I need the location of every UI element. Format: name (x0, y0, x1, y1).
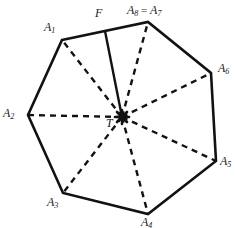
radius-t-a6 (122, 73, 211, 117)
radius-t-a3 (63, 117, 122, 193)
vertex-label-a3: A3 (47, 196, 58, 208)
vertex-label-a8-equals-a7: A8 = A7 (127, 4, 161, 16)
vertex-label-a4: A4 (141, 216, 152, 228)
radius-t-a78 (122, 22, 148, 117)
radius-t-a5 (122, 117, 216, 161)
radius-t-a4 (122, 117, 148, 214)
radius-t-a1 (62, 40, 122, 117)
geometry-figure: A1 A2 A3 A4 A5 A6 A8 = A7 F T (0, 0, 236, 228)
point-label-f: F (95, 7, 102, 19)
vertex-label-a2: A2 (3, 107, 14, 119)
segment-f-t (105, 31, 122, 117)
vertex-label-a6: A6 (218, 62, 229, 74)
vertex-label-a1: A1 (44, 21, 55, 33)
center-point-dot (119, 114, 126, 121)
point-label-t: T (106, 117, 113, 129)
vertex-label-a5: A5 (220, 155, 231, 167)
diagram-canvas (0, 0, 236, 228)
